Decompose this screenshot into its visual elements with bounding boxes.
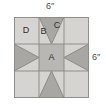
dimension-label-right: 6″	[92, 53, 100, 62]
dimension-label-top: 6″	[46, 2, 54, 11]
patch-label-A: A	[48, 52, 54, 62]
patch-label-B: B	[40, 26, 46, 36]
patch-corner-bottom-left	[14, 71, 39, 98]
patch-label-C: C	[54, 20, 61, 30]
block-figure: D B C A	[14, 17, 89, 98]
patch-corner-top-right	[64, 17, 89, 44]
patch-label-D: D	[23, 25, 30, 35]
patch-corner-bottom-right	[64, 71, 89, 98]
quilt-block-diagram: 6″ 6″	[0, 0, 106, 107]
